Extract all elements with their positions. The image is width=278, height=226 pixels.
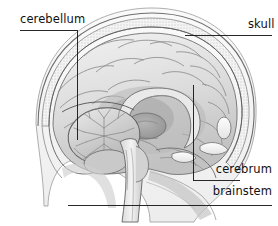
label-cerebellum: cerebellum — [20, 14, 85, 26]
label-cerebrum: cerebrum — [216, 164, 272, 176]
label-skull: skull — [248, 19, 274, 31]
label-brainstem: brainstem — [213, 186, 272, 198]
